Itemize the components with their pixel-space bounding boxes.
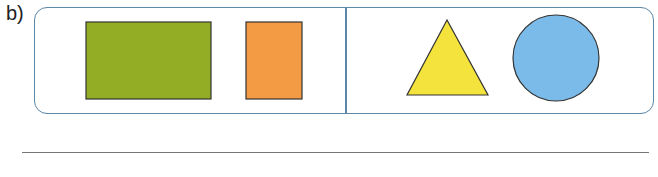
yellow-triangle	[407, 20, 488, 95]
orange-rectangle	[246, 22, 302, 99]
blue-circle	[513, 15, 599, 101]
shapes-canvas	[0, 0, 658, 177]
answer-line[interactable]	[22, 152, 649, 153]
green-rectangle	[86, 22, 211, 99]
